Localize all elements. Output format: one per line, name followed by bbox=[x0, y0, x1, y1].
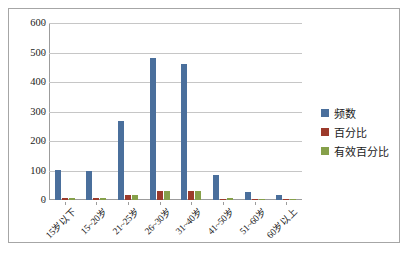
bar[interactable] bbox=[181, 64, 187, 200]
bar[interactable] bbox=[283, 199, 289, 200]
bar-group bbox=[270, 23, 302, 200]
y-axis-tick-label: 200 bbox=[12, 136, 46, 146]
x-axis-tick-mark bbox=[255, 202, 256, 205]
bar[interactable] bbox=[259, 199, 265, 200]
x-axis-tick-label: 26~30岁 bbox=[140, 204, 173, 237]
y-axis-tick-label: 100 bbox=[12, 166, 46, 176]
x-axis-tick-mark bbox=[160, 202, 161, 205]
y-axis-tick-mark bbox=[43, 82, 46, 83]
y-axis-tick-label: 400 bbox=[12, 77, 46, 87]
bar[interactable] bbox=[290, 199, 296, 200]
x-axis-tick-label: 15~20岁 bbox=[77, 204, 110, 237]
x-axis-tick-label: 21~25岁 bbox=[109, 204, 142, 237]
bar[interactable] bbox=[86, 171, 92, 200]
bar-group bbox=[81, 23, 113, 200]
y-axis-tick-mark bbox=[43, 171, 46, 172]
x-axis-tick-label: 60岁以上 bbox=[263, 204, 300, 241]
x-axis-tick-mark bbox=[286, 202, 287, 205]
bar[interactable] bbox=[118, 121, 124, 200]
x-axis-tick-label: 41~50岁 bbox=[204, 204, 237, 237]
bar[interactable] bbox=[227, 198, 233, 200]
legend-item[interactable]: 有效百分比 bbox=[321, 144, 399, 157]
y-axis-tick-label: 300 bbox=[12, 107, 46, 117]
y-axis-tick-mark bbox=[43, 200, 46, 201]
bar-group bbox=[176, 23, 208, 200]
plot-area bbox=[49, 23, 302, 200]
legend-color-swatch bbox=[321, 109, 329, 117]
bar[interactable] bbox=[55, 170, 61, 200]
chart-frame: 0100200300400500600 15岁以下15~20岁21~25岁26~… bbox=[8, 8, 400, 243]
bar-group bbox=[207, 23, 239, 200]
bar-group bbox=[144, 23, 176, 200]
bar-group bbox=[49, 23, 81, 200]
bar[interactable] bbox=[150, 58, 156, 200]
legend-label: 有效百分比 bbox=[334, 143, 389, 159]
legend-color-swatch bbox=[321, 147, 329, 155]
y-axis-tick-mark bbox=[43, 23, 46, 24]
y-axis: 0100200300400500600 bbox=[9, 23, 46, 200]
bar[interactable] bbox=[132, 195, 138, 200]
bar-group bbox=[112, 23, 144, 200]
bar-group bbox=[239, 23, 271, 200]
chart-legend: 频数百分比有效百分比 bbox=[321, 106, 399, 163]
y-axis-tick-label: 600 bbox=[12, 18, 46, 28]
legend-item[interactable]: 频数 bbox=[321, 106, 399, 119]
y-axis-tick-mark bbox=[43, 53, 46, 54]
bar[interactable] bbox=[188, 191, 194, 200]
bar[interactable] bbox=[62, 198, 68, 200]
x-axis-tick-mark bbox=[223, 202, 224, 205]
legend-label: 频数 bbox=[334, 105, 356, 121]
bar[interactable] bbox=[69, 198, 75, 200]
x-axis-tick-mark bbox=[191, 202, 192, 205]
bar[interactable] bbox=[100, 198, 106, 200]
bar[interactable] bbox=[245, 192, 251, 200]
x-axis-tick-mark bbox=[128, 202, 129, 205]
legend-color-swatch bbox=[321, 128, 329, 136]
bar[interactable] bbox=[220, 199, 226, 200]
legend-label: 百分比 bbox=[334, 124, 367, 140]
bar[interactable] bbox=[195, 191, 201, 200]
y-axis-tick-mark bbox=[43, 141, 46, 142]
y-axis-tick-mark bbox=[43, 112, 46, 113]
bar[interactable] bbox=[93, 198, 99, 200]
x-axis-tick-mark bbox=[65, 202, 66, 205]
x-axis-tick-label: 15岁以下 bbox=[42, 204, 79, 241]
y-axis-tick-label: 0 bbox=[12, 195, 46, 205]
bar[interactable] bbox=[276, 195, 282, 200]
x-axis-tick-mark bbox=[96, 202, 97, 205]
bar[interactable] bbox=[252, 199, 258, 200]
bar[interactable] bbox=[213, 175, 219, 200]
x-axis: 15岁以下15~20岁21~25岁26~30岁31~40岁41~50岁51~60… bbox=[49, 202, 302, 246]
legend-item[interactable]: 百分比 bbox=[321, 125, 399, 138]
y-axis-tick-label: 500 bbox=[12, 48, 46, 58]
bar[interactable] bbox=[157, 191, 163, 200]
bar[interactable] bbox=[164, 191, 170, 200]
x-axis-tick-label: 31~40岁 bbox=[172, 204, 205, 237]
bar[interactable] bbox=[125, 195, 131, 200]
